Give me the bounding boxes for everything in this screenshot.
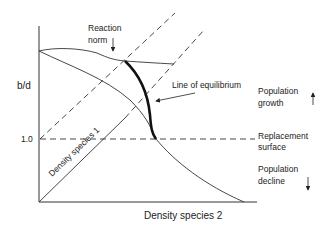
- y-tick-label: 1.0: [21, 134, 33, 144]
- replacement-label-line1: Replacement: [258, 131, 309, 141]
- diagram-canvas: b/d 1.0 Density species 2 Density specie…: [0, 0, 330, 231]
- reaction-norm-label-line2: norm: [88, 35, 107, 45]
- growth-label-line2: growth: [258, 98, 284, 108]
- replacement-label-line2: surface: [258, 142, 286, 152]
- diagonal-label: Density species 1: [46, 125, 101, 179]
- reaction-norm-curve: [39, 49, 174, 64]
- growth-label-line1: Population: [258, 86, 298, 96]
- decline-label-line2: decline: [258, 176, 285, 186]
- x-axis-label: Density species 2: [144, 210, 223, 221]
- y-axis-label: b/d: [17, 80, 31, 91]
- equilibrium-pointer-icon: [156, 93, 195, 101]
- lower-curve: [39, 51, 244, 202]
- density-species-1-axis: [39, 118, 125, 202]
- decline-label-line1: Population: [258, 164, 298, 174]
- equilibrium-label: Line of equilibrium: [172, 80, 241, 90]
- reaction-norm-label-line1: Reaction: [88, 23, 122, 33]
